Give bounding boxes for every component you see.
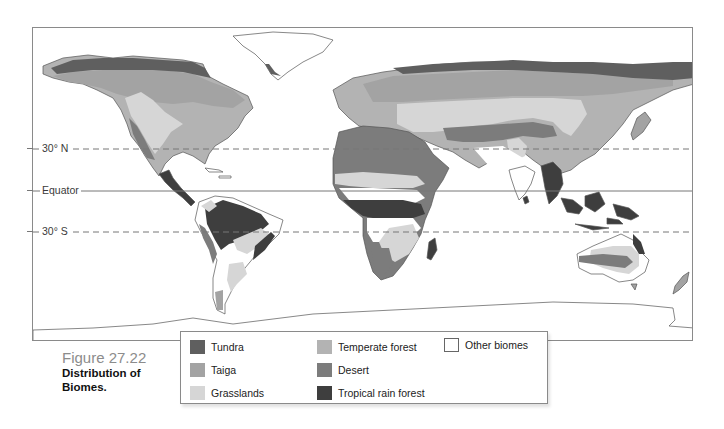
map-legend: Tundra Taiga Grasslands Temperate forest… — [180, 331, 548, 404]
figure-number: Figure 27.22 — [62, 350, 146, 366]
india — [509, 166, 535, 200]
tropical-rain-forest-swatch — [317, 386, 332, 400]
figure-title-line1: Distribution of — [62, 367, 146, 380]
legend-item-grasslands: Grasslands — [190, 386, 264, 400]
legend-item-tundra: Tundra — [190, 340, 244, 354]
tundra-swatch — [190, 340, 205, 354]
figure-caption: Figure 27.22 Distribution of Biomes. — [62, 350, 146, 394]
legend-item-tropical-rain-forest: Tropical rain forest — [317, 386, 425, 400]
greenland — [233, 32, 333, 80]
legend-label: Desert — [338, 364, 369, 376]
label-equator: Equator — [40, 184, 81, 196]
taiga-swatch — [190, 363, 205, 377]
madagascar — [427, 238, 437, 260]
desert-swatch — [317, 363, 332, 377]
legend-label: Grasslands — [211, 387, 264, 399]
legend-label: Tundra — [211, 341, 244, 353]
legend-item-desert: Desert — [317, 363, 369, 377]
tick-30n — [27, 148, 33, 149]
legend-item-taiga: Taiga — [190, 363, 236, 377]
tick-equator — [27, 190, 33, 191]
legend-item-temperate-forest: Temperate forest — [317, 340, 417, 354]
legend-label: Taiga — [211, 364, 236, 376]
world-biome-map — [32, 27, 693, 341]
legend-label: Tropical rain forest — [338, 387, 425, 399]
tropical-rain-forest-se-asia — [541, 162, 563, 204]
temperate-forest-swatch — [317, 340, 332, 354]
tick-30s — [27, 231, 33, 232]
legend-item-other-biomes: Other biomes — [444, 338, 528, 352]
figure-title-line2: Biomes. — [62, 381, 146, 394]
other-biomes-swatch — [444, 338, 459, 352]
legend-label: Temperate forest — [338, 341, 417, 353]
legend-label: Other biomes — [465, 339, 528, 351]
map-graphic — [33, 28, 693, 341]
grasslands-swatch — [190, 386, 205, 400]
label-30n: 30° N — [40, 142, 70, 154]
tropical-rain-forest-africa — [343, 200, 425, 218]
central-america — [159, 170, 195, 206]
label-30s: 30° S — [40, 225, 70, 237]
